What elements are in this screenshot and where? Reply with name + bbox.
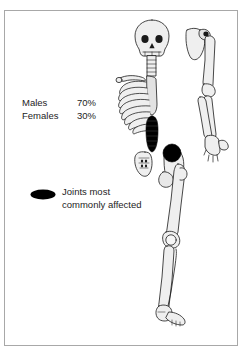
hip-joint-marker [163,144,181,162]
stat-label-males: Males [22,97,68,110]
skeleton-illustration [0,0,248,358]
stat-row: Males70% [22,97,96,110]
stat-value-females: 30% [68,110,96,123]
black-ellipse-marker-icon [30,189,56,200]
legend-line-2: commonly affected [62,199,142,212]
legend-line-1: Joints most [62,186,142,199]
stat-row: Females30% [22,110,96,123]
cervical-spine [147,56,156,76]
tibia [159,246,174,312]
patella [163,231,180,248]
skull [135,20,169,56]
gender-statistics: Males70% Females30% [22,97,96,122]
sacrum [135,152,152,177]
stat-label-females: Females [22,110,68,123]
hand [204,135,228,162]
rib-cage [119,81,150,134]
stat-value-males: 70% [68,97,96,110]
foot [156,305,185,326]
lumbar-spine-marker [146,116,158,152]
legend: Joints most commonly affected [62,186,142,211]
